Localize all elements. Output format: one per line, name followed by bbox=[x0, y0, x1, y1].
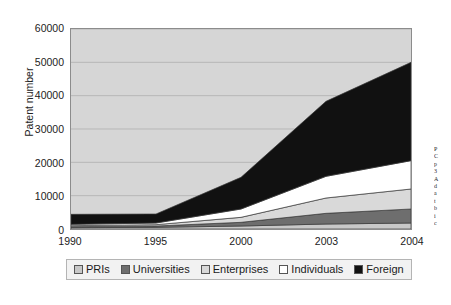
legend-swatch-icon bbox=[279, 265, 288, 274]
legend-item-individuals: Individuals bbox=[279, 264, 343, 275]
x-tick-label: 1995 bbox=[126, 236, 186, 247]
bleed-line: A bbox=[434, 176, 450, 183]
legend-label: Universities bbox=[133, 264, 190, 275]
legend-item-enterprises: Enterprises bbox=[201, 264, 269, 275]
y-tick-label: 0 bbox=[20, 225, 64, 235]
legend-label: Individuals bbox=[291, 264, 343, 275]
bleed-line: a bbox=[434, 190, 450, 197]
y-axis-tick-labels: 0100002000030000400005000060000 bbox=[18, 0, 64, 240]
stacked-area-chart: Patent number 01000020000300004000050000… bbox=[0, 0, 451, 305]
bleed-line: p bbox=[434, 161, 450, 168]
legend-swatch-icon bbox=[121, 265, 130, 274]
bleed-line: i bbox=[434, 213, 450, 220]
y-tick-label: 20000 bbox=[20, 158, 64, 168]
legend-item-universities: Universities bbox=[121, 264, 190, 275]
bleed-line: c bbox=[434, 220, 450, 227]
bleed-line: b bbox=[434, 205, 450, 212]
page-margin-bleed-text: PCp3Adatbic bbox=[434, 146, 450, 227]
legend-swatch-icon bbox=[74, 265, 83, 274]
bleed-line: P bbox=[434, 146, 450, 153]
legend-label: Enterprises bbox=[213, 264, 269, 275]
legend-swatch-icon bbox=[354, 265, 363, 274]
x-tick-label: 1990 bbox=[40, 236, 100, 247]
y-tick-label: 30000 bbox=[20, 124, 64, 134]
y-tick-label: 50000 bbox=[20, 57, 64, 67]
legend-swatch-icon bbox=[201, 265, 210, 274]
legend-label: PRIs bbox=[86, 264, 110, 275]
bleed-line: t bbox=[434, 198, 450, 205]
legend-item-pris: PRIs bbox=[74, 264, 110, 275]
bleed-line: 3 bbox=[434, 168, 450, 175]
x-tick-label: 2000 bbox=[211, 236, 271, 247]
bleed-line: C bbox=[434, 153, 450, 160]
plot-svg bbox=[71, 29, 411, 229]
y-tick-label: 10000 bbox=[20, 191, 64, 201]
bleed-line: d bbox=[434, 183, 450, 190]
plot-area bbox=[70, 28, 412, 230]
legend-item-foreign: Foreign bbox=[354, 264, 403, 275]
x-tick-label: 2003 bbox=[297, 236, 357, 247]
chart-legend: PRIsUniversitiesEnterprisesIndividualsFo… bbox=[66, 259, 412, 280]
legend-label: Foreign bbox=[366, 264, 403, 275]
x-tick-label: 2004 bbox=[382, 236, 442, 247]
y-tick-label: 60000 bbox=[20, 23, 64, 33]
y-tick-label: 40000 bbox=[20, 90, 64, 100]
